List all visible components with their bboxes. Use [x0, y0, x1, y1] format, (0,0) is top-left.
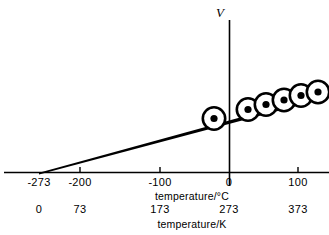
x-tick-label-celsius-3: 0 [226, 176, 232, 188]
x-tick-label-kelvin-4: 373 [288, 203, 307, 215]
x-tick-label-celsius-2: -100 [148, 176, 171, 188]
data-points [203, 81, 329, 130]
x-tick-label-celsius-0: -273 [27, 176, 50, 188]
x-tick-label-kelvin-1: 73 [74, 203, 87, 215]
kelvin-axis-caption: temperature/K [157, 218, 226, 230]
data-point-1 [203, 107, 225, 129]
figure-container: V -273 -200 -100 0 100 temperature/°C 0 … [0, 0, 329, 235]
celsius-axis-caption: temperature/°C [155, 190, 229, 202]
x-tick-label-celsius-1: -200 [68, 176, 91, 188]
x-tick-label-celsius-4: 100 [288, 176, 307, 188]
x-tick-label-kelvin-0: 0 [36, 203, 42, 215]
y-axis-label: V [216, 5, 224, 21]
x-tick-label-kelvin-2: 173 [150, 203, 169, 215]
data-point-6 [307, 81, 329, 103]
x-tick-label-kelvin-3: 273 [219, 203, 238, 215]
